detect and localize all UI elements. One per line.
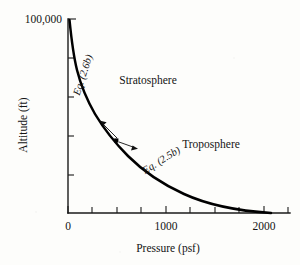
axes xyxy=(68,19,290,213)
arrow-to-troposphere-branch xyxy=(119,142,133,147)
chart-figure: 100,000 0 1000 2000 Altitude (ft) Pressu… xyxy=(0,0,300,265)
arrow-head-troposphere xyxy=(131,145,138,150)
x-axis-title: Pressure (psf) xyxy=(136,242,200,255)
altitude-pressure-chart: 100,000 0 1000 2000 Altitude (ft) Pressu… xyxy=(0,0,300,265)
x-ticklabel-1000: 1000 xyxy=(155,220,178,232)
eq-2-5b-label: Eq. (2.5b) xyxy=(139,144,182,177)
troposphere-label: Troposphere xyxy=(182,138,240,151)
tropopause-marker xyxy=(114,138,118,142)
x-ticklabel-2000: 2000 xyxy=(253,220,276,232)
pressure-altitude-curve xyxy=(70,20,272,213)
y-axis-title: Altitude (ft) xyxy=(17,97,30,152)
y-ticklabel-100000: 100,000 xyxy=(25,13,63,26)
stratosphere-label: Stratosphere xyxy=(119,74,176,87)
x-ticklabel-0: 0 xyxy=(65,220,71,232)
